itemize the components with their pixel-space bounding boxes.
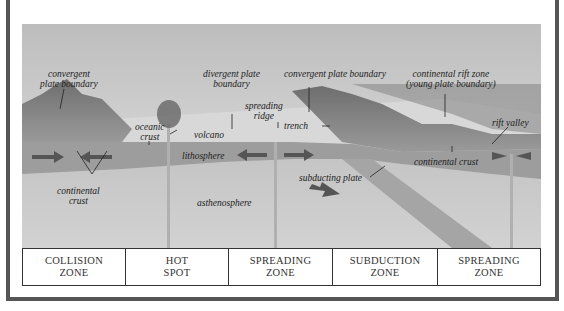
label-spreading-ridge: spreading ridge <box>245 101 283 121</box>
zone-cell-collision: COLLISIONZONE <box>23 249 126 285</box>
label-continental-crust-left: continental crust <box>57 186 100 206</box>
label-lithosphere: lithosphere <box>182 151 224 161</box>
label-volcano: volcano <box>194 130 224 140</box>
label-line: divergent plate <box>203 69 260 79</box>
cross-section-illustration <box>22 24 541 248</box>
label-line: continental <box>57 186 100 196</box>
frame-left-border <box>6 0 10 301</box>
frame-right-border <box>555 0 559 301</box>
zone-line: SPOT <box>164 267 191 279</box>
label-rift-zone: continental rift zone (young plate bound… <box>406 69 496 89</box>
zone-line: HOT <box>164 255 191 267</box>
label-line: convergent <box>40 69 98 79</box>
label-line: continental rift zone <box>406 69 496 79</box>
zone-cell-subduction: SUBDUCTIONZONE <box>333 249 438 285</box>
zone-line: ZONE <box>45 267 103 279</box>
zone-cell-spreading-2: SPREADINGZONE <box>438 249 540 285</box>
label-line: boundary <box>203 79 260 89</box>
label-line: oceanic <box>135 122 165 132</box>
label-line: crust <box>57 196 100 206</box>
label-divergent-boundary: divergent plate boundary <box>203 69 260 89</box>
frame-bottom-border <box>6 297 559 301</box>
label-trench: trench <box>284 121 308 131</box>
zone-line: SPREADING <box>250 255 312 267</box>
label-oceanic-crust: oceanic crust <box>135 122 165 142</box>
label-line: plate boundary <box>40 79 98 89</box>
label-rift-valley: rift valley <box>492 118 529 128</box>
zone-line: SUBDUCTION <box>350 255 421 267</box>
label-asthenosphere: asthenosphere <box>197 198 252 208</box>
zone-line: COLLISION <box>45 255 103 267</box>
zone-cell-spreading-1: SPREADINGZONE <box>229 249 333 285</box>
zone-line: SPREADING <box>458 255 520 267</box>
label-convergent-right: convergent plate boundary <box>284 69 386 79</box>
label-line: crust <box>135 132 165 142</box>
label-line: (young plate boundary) <box>406 79 496 89</box>
label-subducting-plate: subducting plate <box>299 173 362 183</box>
zone-line: ZONE <box>350 267 421 279</box>
zone-line: ZONE <box>250 267 312 279</box>
plate-tectonics-diagram: convergent plate boundary oceanic crust … <box>22 24 541 248</box>
zone-line: ZONE <box>458 267 520 279</box>
label-convergent-left: convergent plate boundary <box>40 69 98 89</box>
label-line: spreading <box>245 101 283 111</box>
label-line: ridge <box>245 111 283 121</box>
zone-table: COLLISIONZONE HOTSPOT SPREADINGZONE SUBD… <box>22 248 541 286</box>
zone-cell-hot-spot: HOTSPOT <box>126 249 229 285</box>
label-continental-crust-right: continental crust <box>414 157 478 167</box>
